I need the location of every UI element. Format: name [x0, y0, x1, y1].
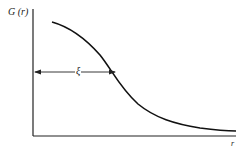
- x-axis-label: r: [231, 139, 234, 148]
- correlation-plot: [0, 0, 248, 153]
- arrow-left-head-icon: [34, 70, 41, 75]
- correlation-length-label: ξ: [75, 65, 81, 76]
- g-r-curve: [52, 22, 236, 131]
- y-axis-label: G (r): [8, 6, 28, 17]
